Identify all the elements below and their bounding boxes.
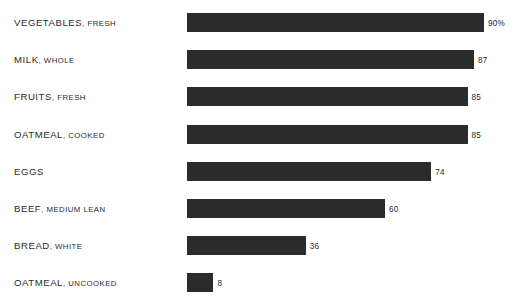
category-label-qualifier: , UNCOOKED bbox=[63, 279, 117, 288]
bar bbox=[187, 13, 484, 32]
bar-value-label: 60 bbox=[389, 199, 399, 218]
category-label-qualifier: , COOKED bbox=[63, 131, 105, 140]
bar-value-label: 90% bbox=[488, 13, 505, 32]
chart-row: VEGETABLES, FRESH90% bbox=[0, 13, 521, 32]
bar-value-label: 36 bbox=[310, 236, 320, 255]
bar bbox=[187, 87, 468, 106]
category-label: FRUITS, FRESH bbox=[14, 87, 86, 106]
chart-row: MILK, WHOLE87 bbox=[0, 50, 521, 69]
chart-row: EGGS74 bbox=[0, 162, 521, 181]
chart-row: BREAD, WHITE36 bbox=[0, 236, 521, 255]
figure-caption bbox=[0, 292, 521, 303]
category-label: MILK, WHOLE bbox=[14, 50, 75, 69]
horizontal-bar-chart: VEGETABLES, FRESH90%MILK, WHOLE87FRUITS,… bbox=[0, 0, 521, 303]
category-label-main: VEGETABLES bbox=[14, 17, 82, 28]
category-label-main: BREAD bbox=[14, 240, 50, 251]
category-label: BREAD, WHITE bbox=[14, 236, 82, 255]
bar bbox=[187, 125, 468, 144]
chart-row: OATMEAL, COOKED85 bbox=[0, 125, 521, 144]
bar-value-label: 8 bbox=[217, 273, 222, 292]
category-label: OATMEAL, COOKED bbox=[14, 125, 105, 144]
chart-row: BEEF, MEDIUM LEAN60 bbox=[0, 199, 521, 218]
chart-row: FRUITS, FRESH85 bbox=[0, 87, 521, 106]
category-label: EGGS bbox=[14, 162, 44, 181]
category-label-main: BEEF bbox=[14, 203, 41, 214]
chart-row: OATMEAL, UNCOOKED8 bbox=[0, 273, 521, 292]
category-label-qualifier: , WHITE bbox=[50, 242, 83, 251]
bar bbox=[187, 236, 306, 255]
category-label: VEGETABLES, FRESH bbox=[14, 13, 116, 32]
category-label-main: OATMEAL bbox=[14, 129, 63, 140]
category-label-main: MILK bbox=[14, 54, 39, 65]
bar-value-label: 74 bbox=[435, 162, 445, 181]
bar bbox=[187, 162, 431, 181]
bar bbox=[187, 273, 213, 292]
category-label: OATMEAL, UNCOOKED bbox=[14, 273, 117, 292]
category-label-main: FRUITS bbox=[14, 91, 52, 102]
bar-value-label: 85 bbox=[472, 125, 482, 144]
bar-value-label: 87 bbox=[478, 50, 488, 69]
category-label-qualifier: , MEDIUM LEAN bbox=[41, 205, 105, 214]
category-label-qualifier: , WHOLE bbox=[39, 56, 75, 65]
category-label-main: OATMEAL bbox=[14, 277, 63, 288]
category-label-qualifier: , FRESH bbox=[82, 19, 116, 28]
category-label-main: EGGS bbox=[14, 166, 44, 177]
category-label: BEEF, MEDIUM LEAN bbox=[14, 199, 106, 218]
bar-value-label: 85 bbox=[472, 87, 482, 106]
bar bbox=[187, 50, 474, 69]
bar bbox=[187, 199, 385, 218]
category-label-qualifier: , FRESH bbox=[52, 93, 86, 102]
